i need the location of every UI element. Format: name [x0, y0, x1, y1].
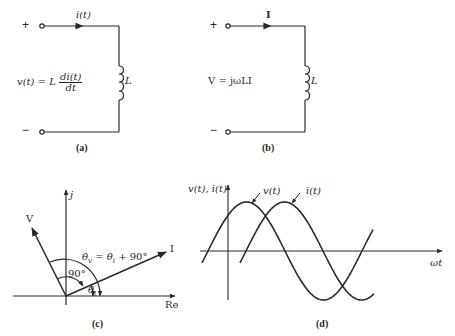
inductor-label-a: L [125, 76, 132, 86]
right-angle-label: 90° [68, 269, 86, 279]
minus-sign-b: − [210, 124, 217, 136]
voltage-curve-label: v(t) [263, 186, 280, 196]
plus-sign-b: + [210, 19, 217, 31]
real-axis-label: Re [165, 300, 178, 310]
equation-a-lhs: v(t) = L [17, 76, 56, 87]
caption-a: (a) [76, 143, 88, 153]
caption-b: (b) [262, 143, 274, 153]
inductor-label-b: L [311, 76, 318, 86]
theta-i-sub: i [94, 290, 96, 298]
voltage-label-pointer [252, 193, 260, 203]
x-axis-label-d: ωt [430, 258, 442, 268]
equation-a: v(t) = L di(t) dt [17, 72, 82, 93]
inductor-coil-a [119, 66, 124, 100]
waveform-plot-d [200, 185, 442, 300]
equation-b: V = jωLI [208, 76, 252, 86]
voltage-phasor [32, 228, 66, 296]
caption-c: (c) [92, 319, 103, 329]
inductor-coil-b [305, 66, 310, 100]
imag-axis-label: j [70, 190, 73, 200]
equation-a-denominator: dt [66, 83, 76, 93]
caption-d: (d) [316, 319, 328, 329]
terminal-minus-b [226, 130, 230, 134]
y-axis-label-d: v(t), i(t) [188, 184, 227, 194]
current-arrow-a [76, 24, 82, 29]
current-curve-label: i(t) [306, 186, 321, 196]
terminal-plus-b [226, 24, 230, 28]
terminal-minus-a [40, 130, 44, 134]
minus-sign-a: − [22, 124, 29, 136]
plus-90-degrees: + 90° [115, 251, 147, 262]
equation-a-fraction: di(t) dt [59, 72, 82, 93]
terminal-plus-a [40, 24, 44, 28]
current-phasor-label: I [170, 244, 174, 254]
plus-sign-a: + [22, 19, 29, 31]
angle-relation-label: θv = θi + 90° [82, 252, 147, 265]
figure-canvas [0, 0, 455, 336]
current-label-b: I [266, 10, 271, 20]
current-arrow-b [264, 24, 270, 29]
theta-i-label: θi [88, 285, 96, 298]
voltage-phasor-label: V [26, 214, 33, 224]
equals-theta-i: = θ [92, 251, 113, 262]
current-label-a: i(t) [76, 10, 91, 20]
current-label-pointer [292, 193, 300, 203]
